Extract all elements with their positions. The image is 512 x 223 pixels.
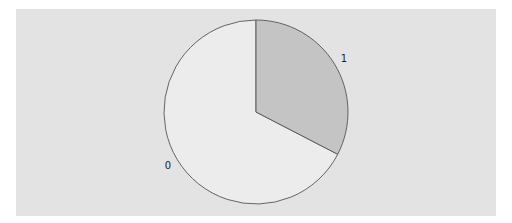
pie-slices	[164, 20, 348, 204]
pie-chart: 01	[0, 0, 512, 223]
pie-label-0: 0	[165, 160, 171, 171]
pie-label-1: 1	[341, 53, 347, 64]
